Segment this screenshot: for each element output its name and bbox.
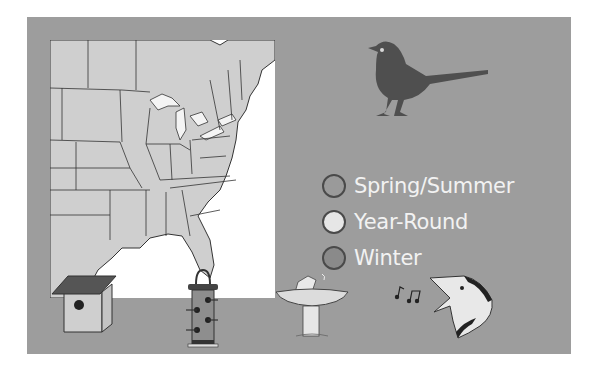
tube-feeder-icon (178, 268, 228, 352)
eastern-us-map (50, 40, 275, 298)
legend-label: Spring/Summer (354, 174, 514, 198)
birdhouse-icon (50, 272, 122, 336)
music-notes-icon (394, 283, 424, 307)
birdbath-icon (272, 270, 352, 340)
year-round-swatch (322, 210, 346, 234)
singing-bird-icon (428, 272, 500, 342)
legend-item-spring-summer: Spring/Summer (322, 168, 514, 204)
spring-summer-swatch (322, 174, 346, 198)
bird-silhouette-icon (364, 40, 492, 126)
legend-label: Winter (354, 246, 421, 270)
legend-item-year-round: Year-Round (322, 204, 514, 240)
winter-swatch (322, 246, 346, 270)
range-map (50, 40, 275, 298)
legend-label: Year-Round (354, 210, 468, 234)
season-legend: Spring/Summer Year-Round Winter (322, 168, 514, 276)
